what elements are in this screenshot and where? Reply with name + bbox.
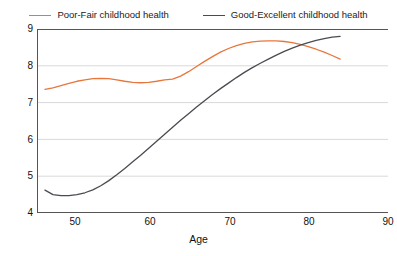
x-tick-50: 50: [60, 217, 90, 227]
y-tick-8: 8: [7, 61, 33, 71]
x-tick-90: 90: [373, 217, 397, 227]
x-tick-60: 60: [135, 217, 165, 227]
legend-item-poor-fair[interactable]: Poor-Fair childhood health: [29, 10, 168, 20]
legend-label-poor-fair: Poor-Fair childhood health: [57, 10, 168, 20]
plot-svg: [37, 29, 388, 213]
x-tick-80: 80: [294, 217, 324, 227]
x-tick-70: 70: [215, 217, 245, 227]
chart-legend: Poor-Fair childhood health Good-Excellen…: [0, 7, 397, 23]
series-line-good-excellent: [45, 36, 340, 195]
y-axis-labels: 9 8 7 6 5 4: [0, 0, 33, 256]
y-tick-6: 6: [7, 135, 33, 145]
y-tick-9: 9: [7, 24, 33, 34]
y-tick-4: 4: [7, 208, 33, 218]
gridlines: [37, 29, 388, 176]
x-axis-title: Age: [0, 234, 397, 245]
plot-area: [37, 29, 388, 213]
series-line-poor-fair: [45, 41, 340, 90]
y-tick-7: 7: [7, 98, 33, 108]
legend-item-good-excellent[interactable]: Good-Excellent childhood health: [203, 10, 368, 20]
legend-label-good-excellent: Good-Excellent childhood health: [231, 10, 368, 20]
chart-container: Poor-Fair childhood health Good-Excellen…: [0, 0, 397, 256]
y-tick-5: 5: [7, 171, 33, 181]
legend-swatch-good-excellent: [203, 15, 225, 16]
